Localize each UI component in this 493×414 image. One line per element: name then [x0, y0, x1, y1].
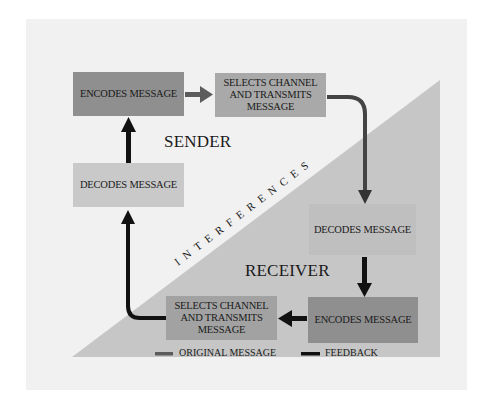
receiver-decodes-box: DECODES MESSAGE — [309, 204, 416, 255]
sender-selects-line1: SELECTS CHANNEL — [223, 77, 317, 89]
receiver-selects-line3: MESSAGE — [198, 324, 246, 336]
receiver-selects-line1: SELECTS CHANNEL — [174, 300, 268, 312]
legend-original-label: ORIGINAL MESSAGE — [179, 347, 276, 358]
receiver-selects-box: SELECTS CHANNEL AND TRANSMITS MESSAGE — [166, 296, 277, 340]
legend-swatch-original — [155, 352, 173, 356]
legend-feedback-label: FEEDBACK — [325, 347, 378, 358]
receiver-selects-line2: AND TRANSMITS — [180, 312, 262, 324]
sender-decodes-box: DECODES MESSAGE — [73, 163, 184, 207]
sender-decodes-label: DECODES MESSAGE — [80, 179, 177, 191]
sender-selects-line2: AND TRANSMITS — [229, 89, 311, 101]
legend-swatch-feedback — [301, 352, 320, 356]
receiver-encodes-box: ENCODES MESSAGE — [308, 297, 418, 343]
legend-feedback: FEEDBACK — [325, 347, 378, 358]
original-arrow-encode-to-select — [185, 86, 213, 103]
receiver-region-label: RECEIVER — [245, 261, 330, 281]
sender-encodes-label: ENCODES MESSAGE — [80, 88, 177, 100]
legend-original-message: ORIGINAL MESSAGE — [179, 347, 276, 358]
receiver-decodes-label: DECODES MESSAGE — [314, 224, 411, 236]
sender-selects-box: SELECTS CHANNEL AND TRANSMITS MESSAGE — [215, 73, 326, 117]
sender-selects-line3: MESSAGE — [247, 101, 295, 113]
feedback-arrow-decode-to-encode-sender — [121, 117, 136, 163]
receiver-encodes-label: ENCODES MESSAGE — [314, 314, 411, 326]
sender-region-label: SENDER — [164, 132, 231, 152]
sender-encodes-box: ENCODES MESSAGE — [73, 72, 184, 116]
